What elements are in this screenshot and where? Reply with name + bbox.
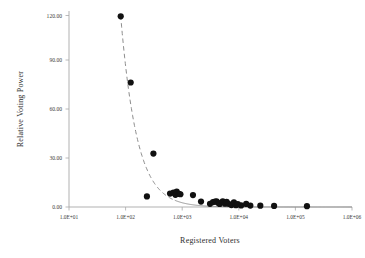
x-tick-label-1e1: 1.0E+01: [60, 214, 79, 220]
x-tick-label-1e3: 1.0E+03: [173, 214, 192, 220]
x-tick-label-1e4: 1.0E+04: [230, 214, 249, 220]
data-point: [257, 203, 263, 209]
y-tick-label-60: 60.00: [49, 106, 62, 112]
data-point: [128, 79, 134, 85]
data-point: [190, 192, 196, 198]
data-point: [304, 203, 310, 209]
x-axis-title: Registered Voters: [180, 236, 240, 245]
scatter-chart: 0.00 30.00 60.00 90.00 120.00 1.0E+01 1.…: [0, 0, 365, 258]
y-tick-label-30: 30.00: [49, 155, 62, 161]
data-point: [271, 203, 277, 209]
x-tick-label-1e2: 1.0E+02: [116, 214, 135, 220]
x-tick-label-1e5: 1.0E+05: [286, 214, 305, 220]
data-point: [247, 202, 253, 208]
data-point: [118, 13, 124, 19]
y-tick-label-120: 120.00: [47, 13, 63, 19]
y-tick-label-90: 90.00: [49, 57, 62, 63]
data-point: [144, 193, 150, 199]
data-point: [177, 191, 183, 197]
chart-canvas: 0.00 30.00 60.00 90.00 120.00 1.0E+01 1.…: [0, 0, 365, 258]
y-axis-title: Relative Voting Power: [16, 71, 25, 147]
data-point: [150, 150, 156, 156]
x-tick-label-1e6: 1.0E+06: [343, 214, 362, 220]
data-point: [198, 198, 204, 204]
y-tick-label-0: 0.00: [52, 204, 62, 210]
